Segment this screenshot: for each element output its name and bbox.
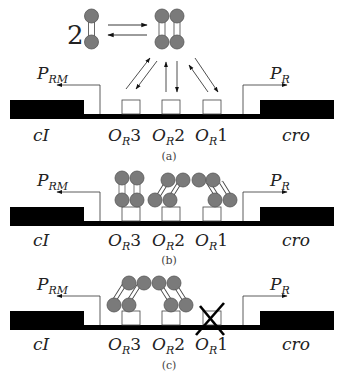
tetramer-icon [155,9,184,49]
operator-or3-label: OR3 [108,230,141,253]
operator-or3-site [122,100,140,114]
operator-or1-label: OR1 [195,125,228,148]
operator-or1-label: OR1 [195,334,228,357]
diagram-canvas: 2 [0,0,339,378]
operator-or2-site [162,100,180,114]
stoichiometry-coefficient: 2 [67,20,84,50]
promoter-prm-label: PRM [36,170,69,193]
cro-gene-label: cro [282,334,310,354]
dna-strand [10,207,334,226]
binding-arrows [126,58,218,92]
operator-or1-site [203,100,221,114]
bound-protein-complex [115,171,237,207]
operator-or3-label: OR3 [108,125,141,148]
operator-or3-label: OR3 [108,334,141,357]
ci-gene-label: cI [33,230,50,250]
panel-a-caption: (a) [161,150,176,163]
promoter-prm-label: PRM [36,274,69,297]
panel-a: 2 [10,9,334,163]
panel-b: PRM PR [10,170,334,267]
reversible-arrows-icon [108,25,147,35]
ci-gene-block [10,100,84,119]
promoter-prm-label: PRM [36,63,69,86]
reaction: 2 [67,9,184,50]
ci-gene-label: cI [33,125,50,145]
ci-gene-label: cI [33,334,50,354]
dimer-icon [85,9,99,49]
dna-strand [10,311,334,330]
cro-gene-block [260,100,334,119]
operator-or2-label: OR2 [152,334,185,357]
operator-or1-label: OR1 [195,230,228,253]
panel-c-caption: (c) [162,359,177,372]
operator-or2-label: OR2 [152,125,185,148]
panel-c: PRM PR cI cro OR3 OR2 OR1 [10,274,334,372]
operator-or2-label: OR2 [152,230,185,253]
bound-protein-complex [107,276,193,312]
cro-gene-label: cro [282,125,310,145]
promoter-pr-label: PR [269,63,290,86]
cro-gene-label: cro [282,230,310,250]
dna-strand [10,100,334,119]
panel-b-caption: (b) [161,254,177,267]
promoter-pr-label: PR [269,170,290,193]
promoter-pr-label: PR [269,274,290,297]
